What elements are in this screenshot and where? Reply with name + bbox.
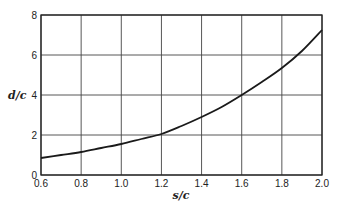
x-axis-ticks: 0.60.81.01.21.41.61.82.0 [34, 178, 329, 189]
y-tick-label: 8 [31, 10, 37, 21]
data-curve [41, 30, 322, 158]
x-axis-label: s/c [173, 189, 190, 202]
y-tick-label: 6 [31, 50, 37, 61]
x-tick-label: 1.8 [275, 178, 289, 189]
x-tick-label: 2.0 [315, 178, 329, 189]
chart: 0.60.81.01.21.41.61.82.0 02468 d/c s/c [0, 0, 338, 209]
y-tick-label: 4 [31, 90, 37, 101]
x-tick-label: 1.0 [114, 178, 128, 189]
x-tick-label: 1.2 [154, 178, 168, 189]
y-tick-label: 2 [31, 130, 37, 141]
y-tick-label: 0 [31, 170, 37, 181]
x-tick-label: 0.8 [74, 178, 88, 189]
y-axis-label: d/c [8, 89, 27, 102]
y-axis-ticks: 02468 [31, 10, 37, 181]
x-tick-label: 1.6 [235, 178, 249, 189]
x-tick-label: 1.4 [195, 178, 209, 189]
